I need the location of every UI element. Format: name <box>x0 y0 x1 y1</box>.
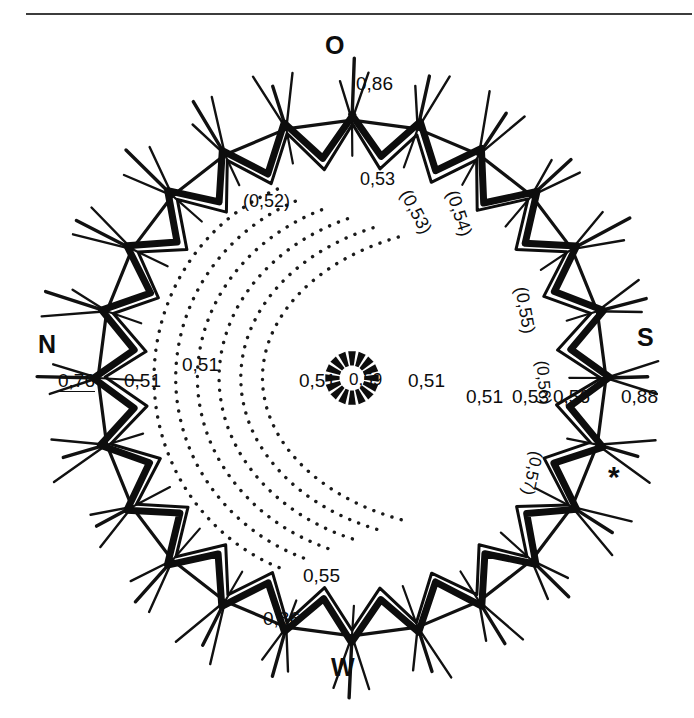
value-label-centre: 0,59 <box>349 371 382 388</box>
value-label-right-interior: 0,51 <box>466 387 503 406</box>
value-label-left-edge: 0,51 <box>124 371 161 390</box>
value-label-centre-left: 0,51 <box>299 371 336 390</box>
compass-label-right: S <box>637 325 654 350</box>
value-label-right-peak: 0,88 <box>621 387 658 406</box>
compass-label-bottom: W <box>331 655 355 680</box>
diagram-artwork <box>0 0 694 718</box>
value-label-bottom-peak: 0,86 <box>263 609 300 628</box>
contour-label-0-53-top: 0,53 <box>360 170 395 188</box>
contour-label-0-56-right: 0,56 <box>553 387 590 406</box>
compass-label-left: N <box>38 332 56 357</box>
value-label-centre-right: 0,51 <box>408 371 445 390</box>
value-label-left-interior: 0,51 <box>182 355 219 374</box>
asterisk-marker: * <box>608 468 620 486</box>
contour-label-0-53-right: 0,53 <box>512 387 549 406</box>
contour-label-0-52: (0,52) <box>243 192 290 210</box>
contour-label-0-55-bottom: 0,55 <box>303 566 340 585</box>
value-label-top-peak: 0,86 <box>356 74 393 93</box>
value-label-left-peak: 0,76 <box>58 371 95 392</box>
figure-canvas: O W N S * 0,86 0,86 0,88 0,76 0,51 0,51 … <box>0 0 694 718</box>
compass-label-top: O <box>325 33 344 58</box>
